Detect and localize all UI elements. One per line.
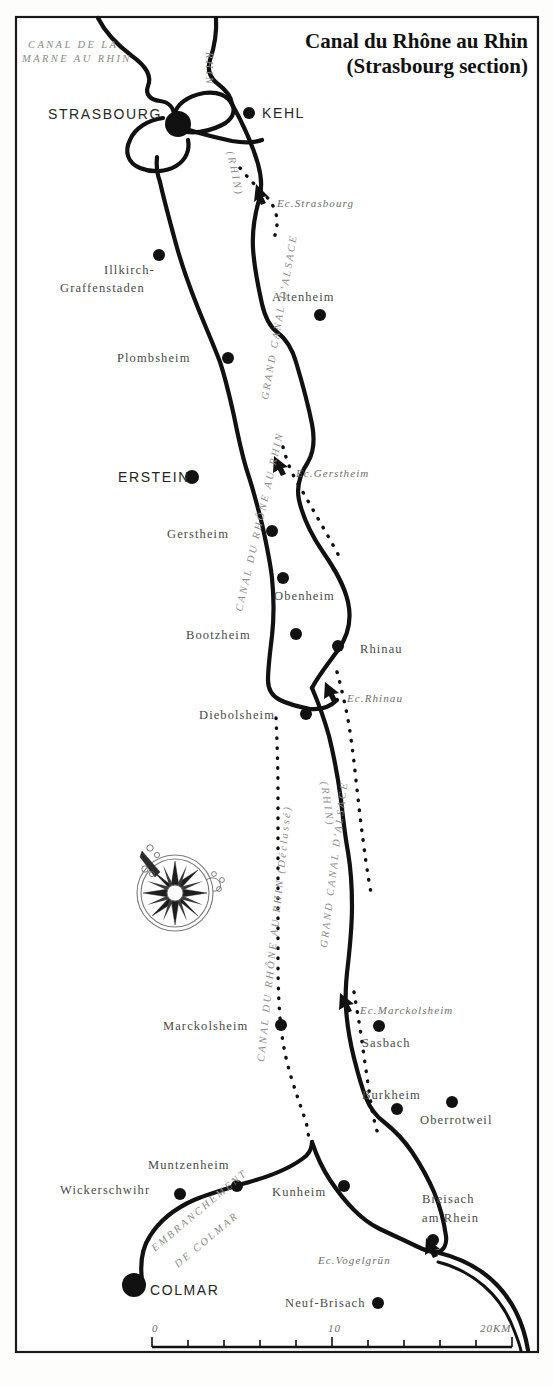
city-dot-oberrotweil[interactable]	[446, 1096, 458, 1108]
lock-label-ec-vogelgrun: Ec.Vogelgrün	[317, 1254, 391, 1266]
scale-label-10: 10	[328, 1322, 341, 1334]
lock-label-ec-rhinau: Ec.Rhinau	[346, 692, 403, 704]
city-label-kunheim: Kunheim	[272, 1185, 326, 1199]
canal-label-rhin-top: RHIN	[204, 51, 215, 86]
city-label-muntzenheim: Muntzenheim	[148, 1158, 230, 1172]
city-dot-kunheim[interactable]	[338, 1180, 350, 1192]
city-label-illkirch: Illkirch-	[104, 263, 155, 277]
map-frame	[16, 17, 538, 1352]
city-dot-plombsheim[interactable]	[222, 352, 234, 364]
city-label-rhinau: Rhinau	[360, 642, 403, 656]
map-title-line1: Canal du Rhône au Rhin	[305, 29, 528, 53]
scale-label-20km: 20KM	[480, 1322, 512, 1334]
city-label-plombsheim: Plombsheim	[117, 351, 191, 365]
city-label-sasbach: Sasbach	[362, 1036, 411, 1050]
city-dot-burkheim[interactable]	[391, 1103, 403, 1115]
city-label-marckolsheim: Marckolsheim	[163, 1019, 248, 1033]
city-label-neuf-brisach: Neuf-Brisach	[285, 1296, 366, 1310]
city-dot-illkirch-graffenstaden[interactable]	[153, 249, 165, 261]
city-dot-gerstheim[interactable]	[266, 525, 278, 537]
map-canvas: Canal du Rhône au Rhin (Strasbourg secti…	[0, 0, 553, 1386]
city-label-erstein: ERSTEIN	[118, 469, 190, 485]
city-dot-kehl[interactable]	[243, 107, 255, 119]
city-dot-diebolsheim[interactable]	[300, 708, 312, 720]
city-label-oberrotweil: Oberrotweil	[420, 1113, 493, 1127]
compass-hub	[167, 885, 183, 901]
city-label-am-rhein: am Rhein	[422, 1211, 479, 1225]
city-dot-sasbach[interactable]	[373, 1020, 385, 1032]
city-label-gerstheim: Gerstheim	[167, 527, 229, 541]
city-label-burkheim: Burkheim	[362, 1088, 421, 1102]
city-label-obenheim: Obenheim	[274, 589, 335, 603]
city-dot-marckolsheim[interactable]	[275, 1019, 287, 1031]
city-label-colmar: COLMAR	[150, 1282, 220, 1298]
city-dot-rhinau[interactable]	[332, 640, 344, 652]
city-label-bootzheim: Bootzheim	[186, 628, 251, 642]
city-label-breisach: Breisach	[422, 1192, 475, 1206]
city-dot-breisach-am-rhein[interactable]	[427, 1234, 439, 1246]
city-dot-altenheim[interactable]	[314, 309, 326, 321]
city-label-graffenstaden: Graffenstaden	[60, 281, 145, 295]
city-dot-bootzheim[interactable]	[290, 628, 302, 640]
city-label-strasbourg: STRASBOURG	[48, 106, 162, 122]
city-label-diebolsheim: Diebolsheim	[199, 708, 275, 722]
city-label-wickerschwihr: Wickerschwihr	[60, 1183, 150, 1197]
lock-label-ec-marckolsheim: Ec.Marckolsheim	[359, 1004, 453, 1016]
city-dot-strasbourg[interactable]	[165, 111, 191, 137]
lock-label-ec-gerstheim: Ec.Gerstheim	[295, 467, 369, 479]
map-title-line2: (Strasbourg section)	[347, 54, 528, 78]
map-figure: Canal du Rhône au Rhin (Strasbourg secti…	[0, 0, 553, 1386]
canal-label-marne-rhin-line1: CANAL DE LA	[28, 39, 118, 50]
scale-label-0: 0	[152, 1322, 159, 1334]
lock-label-ec-strasbourg: Ec.Strasbourg	[276, 197, 354, 209]
city-label-kehl: KEHL	[262, 105, 305, 121]
city-dot-neuf-brisach[interactable]	[372, 1297, 384, 1309]
city-dot-wickerschwihr[interactable]	[174, 1188, 186, 1200]
city-dot-obenheim[interactable]	[277, 572, 289, 584]
city-dot-colmar[interactable]	[122, 1273, 146, 1297]
canal-label-marne-rhin-line2: MARNE AU RHIN	[21, 53, 132, 64]
